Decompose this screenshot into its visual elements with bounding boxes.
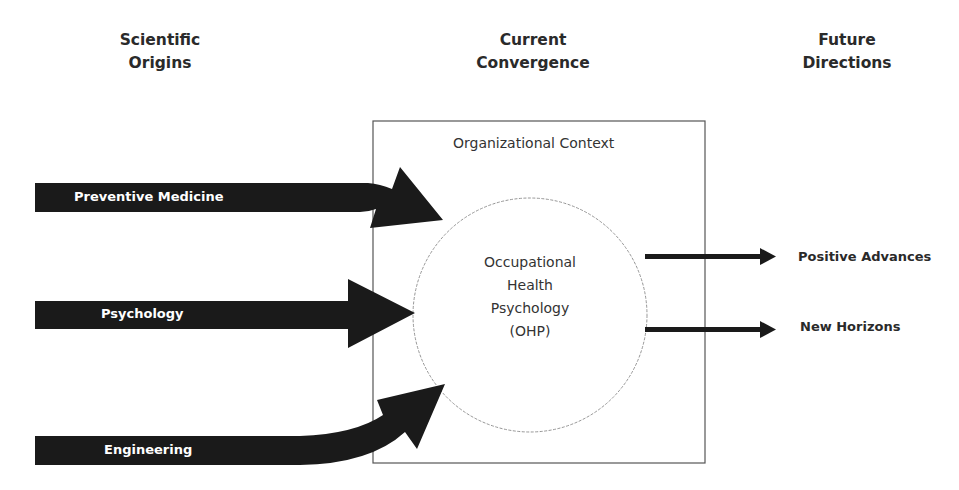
- engineering-arrow: [35, 384, 445, 465]
- ohp-label: Occupational Health Psychology (OHP): [460, 251, 600, 343]
- ohp-line: Occupational: [460, 251, 600, 274]
- new-horizons-arrow: [645, 321, 776, 338]
- ohp-line: Health: [460, 274, 600, 297]
- ohp-line: (OHP): [460, 320, 600, 343]
- psychology-arrow: [35, 279, 415, 348]
- diagram-canvas: [0, 0, 959, 490]
- ohp-line: Psychology: [460, 297, 600, 320]
- direction-label-new-horizons: New Horizons: [800, 319, 900, 334]
- direction-label-positive-advances: Positive Advances: [798, 249, 931, 264]
- organizational-context-label: Organizational Context: [453, 135, 614, 151]
- origin-label-preventive-medicine: Preventive Medicine: [74, 189, 224, 204]
- origin-label-engineering: Engineering: [104, 442, 192, 457]
- origin-label-psychology: Psychology: [101, 306, 184, 321]
- positive-advances-arrow: [645, 248, 776, 265]
